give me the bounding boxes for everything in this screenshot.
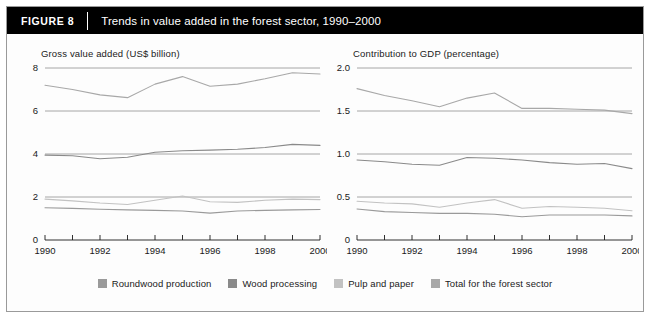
- legend-item-label: Wood processing: [242, 278, 317, 289]
- y-axis-tick-label: 0: [33, 234, 38, 245]
- legend-item-label: Total for the forest sector: [445, 278, 552, 289]
- x-axis-tick-label: 1994: [456, 245, 477, 256]
- x-axis-tick-label: 1992: [401, 245, 422, 256]
- figure-frame: FIGURE 8 Trends in value added in the fo…: [6, 6, 644, 312]
- legend-swatch-icon: [431, 279, 440, 288]
- x-axis-tick-label: 1990: [34, 245, 55, 256]
- y-axis-tick-label: 2.0: [337, 62, 350, 73]
- data-series-line: [45, 208, 320, 213]
- x-axis-tick-label: 1996: [511, 245, 532, 256]
- legend-item-label: Pulp and paper: [348, 278, 414, 289]
- data-series-line: [357, 200, 632, 211]
- x-axis-tick-label: 1996: [199, 245, 220, 256]
- x-axis-tick-label: 1992: [89, 245, 110, 256]
- figure-title-bar: FIGURE 8 Trends in value added in the fo…: [7, 7, 643, 34]
- x-axis-tick-label: 1998: [566, 245, 587, 256]
- data-series-line: [357, 89, 632, 114]
- figure-title-text: Trends in value added in the forest sect…: [88, 15, 381, 27]
- data-series-line: [357, 157, 632, 168]
- legend-swatch-icon: [98, 279, 107, 288]
- legend-item: Roundwood production: [98, 278, 212, 289]
- figure-body: Gross value added (US$ billion) 02468199…: [7, 34, 643, 311]
- x-axis-tick-label: 1994: [144, 245, 165, 256]
- legend-item: Wood processing: [228, 278, 317, 289]
- y-axis-tick-label: 2: [33, 191, 38, 202]
- data-series-line: [357, 209, 632, 217]
- chart-panel-gross-value-added: Gross value added (US$ billion) 02468199…: [15, 34, 327, 274]
- y-axis-tick-label: 4: [33, 148, 38, 159]
- legend-item: Total for the forest sector: [431, 278, 552, 289]
- y-axis-tick-label: 1.0: [337, 148, 350, 159]
- chart-panel-contribution-to-gdp: Contribution to GDP (percentage) 00.51.0…: [327, 34, 639, 274]
- legend-swatch-icon: [334, 279, 343, 288]
- legend-swatch-icon: [228, 279, 237, 288]
- data-series-line: [45, 73, 320, 98]
- y-axis-tick-label: 0: [345, 234, 350, 245]
- legend-item: Pulp and paper: [334, 278, 414, 289]
- y-axis-tick-label: 1.5: [337, 105, 350, 116]
- x-axis-tick-label: 2000: [309, 245, 327, 256]
- line-chart-contribution-to-gdp: 00.51.01.52.0199019921994199619982000: [327, 34, 639, 274]
- data-series-line: [45, 144, 320, 158]
- y-axis-tick-label: 6: [33, 105, 38, 116]
- x-axis-tick-label: 1990: [346, 245, 367, 256]
- y-axis-tick-label: 8: [33, 62, 38, 73]
- chart-legend: Roundwood productionWood processingPulp …: [7, 278, 643, 289]
- x-axis-tick-label: 2000: [621, 245, 639, 256]
- figure-number-label: FIGURE 8: [7, 15, 87, 27]
- y-axis-tick-label: 0.5: [337, 191, 350, 202]
- line-chart-gross-value-added: 02468199019921994199619982000: [15, 34, 327, 274]
- x-axis-tick-label: 1998: [254, 245, 275, 256]
- legend-item-label: Roundwood production: [112, 278, 212, 289]
